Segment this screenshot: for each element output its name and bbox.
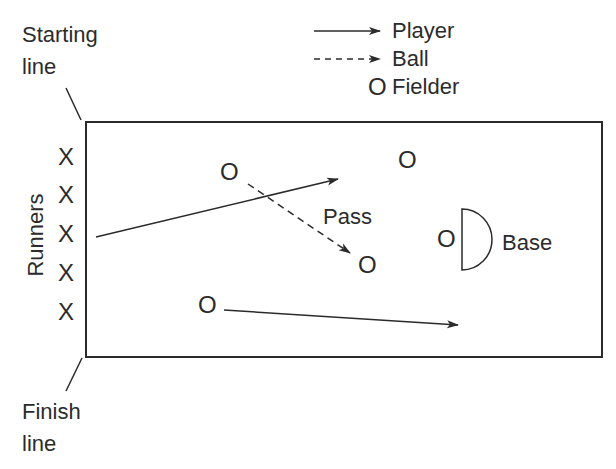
fielder-marker: O <box>398 148 417 172</box>
pass-label: Pass <box>323 204 372 230</box>
fielder-marker: O <box>358 253 377 277</box>
legend-player-label: Player <box>392 18 454 44</box>
fielder-marker: O <box>220 160 239 184</box>
runners-label: Runners <box>23 185 49 285</box>
legend-fielder-label: Fielder <box>392 74 459 100</box>
starting-line-label-1: Starting <box>22 22 98 48</box>
fielder-marker: O <box>437 227 456 251</box>
base-shape <box>462 209 492 270</box>
runner-marker: X <box>58 222 74 246</box>
player-run-arrow-1 <box>96 179 338 237</box>
finish-line-pointer <box>66 358 82 391</box>
runner-marker: X <box>58 183 74 207</box>
runner-marker: X <box>58 145 74 169</box>
finish-line-label-2: line <box>22 431 56 457</box>
finish-line-label-1: Finish <box>22 399 81 425</box>
legend-fielder-symbol: O <box>368 75 387 99</box>
starting-line-label-2: line <box>22 54 56 80</box>
base-label: Base <box>502 230 552 256</box>
runner-marker: X <box>58 300 74 324</box>
runner-marker: X <box>58 261 74 285</box>
player-run-arrow-2 <box>224 310 458 325</box>
starting-line-pointer <box>66 88 81 120</box>
legend-ball-label: Ball <box>392 46 429 72</box>
fielder-marker: O <box>198 293 217 317</box>
